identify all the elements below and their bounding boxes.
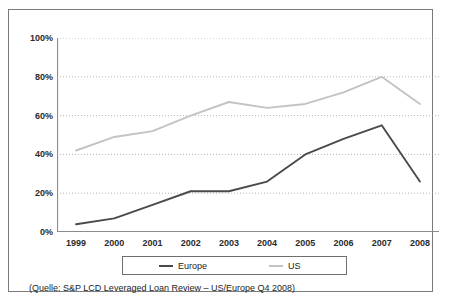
chart-legend: Europe US — [122, 256, 347, 275]
y-tick-label: 20% — [17, 188, 53, 198]
y-tick-label: 80% — [17, 72, 53, 82]
y-tick-label: 0% — [17, 227, 53, 237]
legend-item-europe: Europe — [159, 257, 207, 274]
legend-line-swatch-us — [269, 265, 283, 267]
series-line-us — [76, 77, 420, 151]
plot-area — [57, 38, 439, 232]
y-tick-label: 40% — [17, 149, 53, 159]
legend-label-europe: Europe — [178, 261, 207, 271]
chart-frame: 0%20%40%60%80%100% 199920002001200220032… — [8, 9, 433, 292]
legend-item-us: US — [269, 257, 301, 274]
gridlines — [57, 38, 439, 232]
x-tick-label: 2008 — [397, 238, 443, 248]
x-axis-labels: 1999200020012002200320042005200620072008 — [57, 238, 439, 254]
legend-line-swatch-europe — [159, 265, 173, 267]
legend-label-us: US — [288, 261, 301, 271]
chart-figure: 0%20%40%60%80%100% 199920002001200220032… — [0, 0, 449, 304]
source-caption: (Quelle: S&P LCD Leveraged Loan Review –… — [29, 283, 295, 293]
y-tick-label: 100% — [17, 33, 53, 43]
series-line-europe — [76, 125, 420, 224]
axis-lines — [57, 38, 439, 232]
y-tick-label: 60% — [17, 111, 53, 121]
y-axis-labels: 0%20%40%60%80%100% — [13, 38, 53, 232]
line-chart-svg — [57, 38, 439, 232]
series-lines — [76, 77, 420, 224]
